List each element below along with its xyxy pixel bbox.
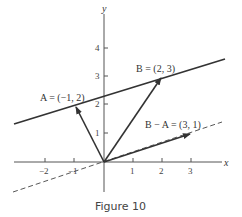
figure-caption: Figure 10 (95, 200, 146, 213)
x-ticks (45, 158, 191, 162)
x-axis-label: x (223, 157, 229, 168)
x-tick-label: 3 (188, 166, 193, 176)
y-axis-label: y (101, 3, 107, 14)
vector-b-minus-a-arrow (104, 134, 190, 162)
y-tick-label: 3 (95, 71, 100, 81)
y-tick-label: 2 (95, 99, 100, 109)
x-tick-label: 1 (130, 166, 135, 176)
vector-a-arrow (76, 107, 104, 162)
vector-a-label: A = (−1, 2) (40, 92, 85, 104)
y-tick-label: 4 (95, 43, 100, 53)
vector-diagram: −2 −1 1 2 3 x 1 2 3 4 y A = (−1, 2) B = … (0, 0, 242, 217)
x-tick-label: −2 (39, 166, 49, 176)
vector-b-minus-a-label: B − A = (3, 1) (145, 119, 201, 131)
vector-b-label: B = (2, 3) (136, 63, 175, 75)
y-tick-label: 1 (95, 128, 100, 138)
x-tick-label: 2 (159, 166, 164, 176)
y-ticks (104, 48, 108, 133)
